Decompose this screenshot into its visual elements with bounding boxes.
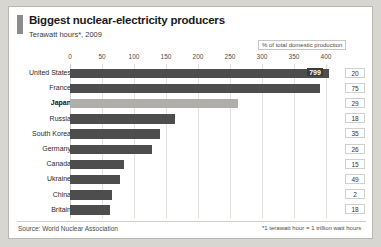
footnote-label: *1 terawatt hour = 1 trillion watt hours: [262, 225, 361, 231]
bar-row: Germany26: [9, 142, 372, 157]
category-label: France: [49, 84, 71, 91]
accent-bar-icon: [17, 15, 23, 34]
chart-header: Biggest nuclear-electricity producers Te…: [9, 7, 372, 53]
chart-figure: Biggest nuclear-electricity producers Te…: [8, 6, 373, 239]
x-tick-label: 350: [289, 53, 300, 60]
bar-row: Ukraine49: [9, 172, 372, 187]
percent-value: 49: [345, 174, 365, 184]
bar-row: Britain18: [9, 203, 372, 218]
bar: [70, 175, 120, 184]
bar-value-label: 799: [307, 68, 323, 76]
percent-value: 15: [345, 159, 365, 169]
category-label: Canada: [46, 160, 71, 167]
category-label: United States: [29, 69, 71, 76]
bar-row: South Korea35: [9, 127, 372, 142]
percent-value: 75: [345, 83, 365, 93]
bar: [70, 114, 175, 123]
x-tick-label: 0: [68, 53, 72, 60]
x-tick-label: 300: [257, 53, 268, 60]
source-label: Source: World Nuclear Association: [18, 225, 118, 232]
bar-row: Russia18: [9, 112, 372, 127]
bar-row: Canada15: [9, 157, 372, 172]
bar: [70, 69, 329, 78]
percent-value: 26: [345, 144, 365, 154]
category-label: Germany: [42, 145, 71, 152]
bar: [70, 129, 160, 138]
bar-row: China2: [9, 188, 372, 203]
footer-divider: [17, 221, 366, 222]
x-tick-label: 50: [98, 53, 105, 60]
x-tick-label: 250: [225, 53, 236, 60]
category-label: Russia: [50, 115, 71, 122]
category-label: Japan: [51, 99, 71, 106]
percent-value: 18: [345, 204, 365, 214]
bar-row: Japan29: [9, 96, 372, 111]
x-tick-label: 200: [193, 53, 204, 60]
bar: [70, 190, 112, 199]
x-tick-label: 400: [321, 53, 332, 60]
x-tick-label: 100: [129, 53, 140, 60]
legend-label: % of total domestic production: [258, 40, 346, 50]
category-label: Britain: [51, 206, 71, 213]
bar-row: France75: [9, 81, 372, 96]
category-label: China: [53, 191, 71, 198]
percent-value: 35: [345, 128, 365, 138]
bar: [70, 205, 110, 214]
x-tick-label: 150: [161, 53, 172, 60]
percent-value: 20: [345, 68, 365, 78]
chart-subtitle: Terawatt hours*, 2009: [29, 30, 102, 39]
category-label: Ukraine: [47, 175, 71, 182]
bar: [70, 84, 320, 93]
bar-row: United States79920: [9, 66, 372, 81]
percent-value: 29: [345, 98, 365, 108]
chart-plot-area: 050100150200250300350400 United States79…: [9, 53, 372, 218]
bar: [70, 160, 124, 169]
percent-value: 2: [345, 189, 365, 199]
percent-value: 18: [345, 113, 365, 123]
chart-title: Biggest nuclear-electricity producers: [29, 14, 225, 26]
category-label: South Korea: [32, 130, 71, 137]
bar: [70, 145, 152, 154]
bar: [70, 99, 238, 108]
